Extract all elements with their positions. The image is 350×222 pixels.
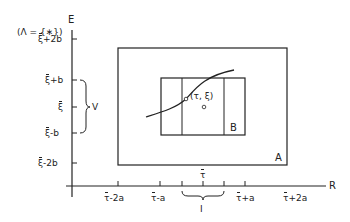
xi-bar: ξ: [38, 34, 43, 44]
region-a-label: A: [275, 153, 282, 163]
tick-suffix: -a: [156, 193, 165, 203]
y-tick-label-minus-b: ξ-b: [45, 128, 59, 138]
xi-bar: ξ: [45, 75, 50, 85]
y-ticks: [72, 39, 77, 163]
vertical-brace: [80, 80, 90, 133]
y-tick-label-plus-b: ξ+b: [45, 75, 63, 85]
tau-bar: τ: [200, 170, 205, 180]
tau-bar: τ: [151, 193, 156, 203]
x-axis-label: R: [329, 181, 336, 191]
xi-bar: ξ: [45, 128, 50, 138]
y-axis-label: E: [68, 15, 74, 25]
x-tick-label-minus-2a: τ-2a: [104, 193, 124, 203]
x-tick-label-plus-2a: τ+2a: [283, 193, 307, 203]
y-tick-label-center: ξ: [58, 102, 63, 112]
x-ticks: [118, 181, 245, 186]
xi-bar: ξ: [38, 158, 43, 168]
tick-suffix: -2a: [109, 193, 124, 203]
x-tick-label-minus-a: τ-a: [151, 193, 165, 203]
tick-suffix: -2b: [43, 158, 58, 168]
curve-point: [184, 97, 188, 101]
vertical-brace-label: V: [92, 102, 98, 112]
horizontal-brace: [182, 191, 224, 200]
xi-bar: ξ: [58, 102, 63, 112]
x-tick-label-plus-a: τ+a: [236, 193, 254, 203]
tick-suffix: +2a: [288, 193, 307, 203]
center-point: [202, 105, 206, 109]
horizontal-brace-label: I: [200, 204, 203, 214]
tick-suffix: +a: [241, 193, 254, 203]
point-label: (τ, ξ): [190, 91, 213, 101]
tick-suffix: -b: [50, 128, 59, 138]
x-tick-label-center: τ: [200, 170, 205, 180]
tau-bar: τ: [236, 193, 241, 203]
tick-suffix: +b: [50, 75, 63, 85]
y-tick-label-plus-2b: ξ+2b: [38, 34, 62, 44]
tau-bar: τ: [283, 193, 288, 203]
y-tick-label-minus-2b: ξ-2b: [38, 158, 58, 168]
region-b-label: B: [230, 123, 237, 133]
tau-bar: τ: [104, 193, 109, 203]
tick-suffix: +2b: [43, 34, 62, 44]
